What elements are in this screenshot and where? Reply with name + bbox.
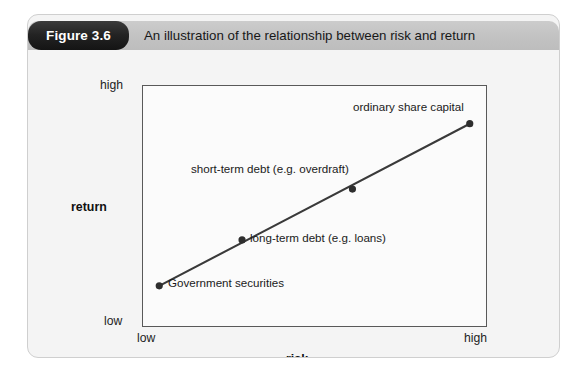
x-axis-low-label: low [137,331,155,345]
y-axis-title: return [71,200,107,214]
point-label-short-term-debt: short-term debt (e.g. overdraft) [191,162,349,175]
data-point [238,236,245,243]
y-axis-high-label: high [100,78,123,92]
figure-card: Figure 3.6 An illustration of the relati… [27,14,560,358]
data-point [466,120,473,127]
trend-line [159,124,470,286]
chart-area: high low low high return risk Government… [28,50,560,358]
point-label-long-term-debt: long-term debt (e.g. loans) [250,231,386,244]
figure-title: An illustration of the relationship betw… [144,21,475,50]
x-axis-high-label: high [464,331,487,345]
data-point [156,282,163,289]
point-label-government-securities: Government securities [168,276,284,289]
data-point [349,185,356,192]
figure-number-label: Figure 3.6 [46,28,111,43]
figure-number-badge: Figure 3.6 [28,21,129,50]
figure-header-band: Figure 3.6 An illustration of the relati… [28,21,559,50]
y-axis-low-label: low [104,314,122,328]
plot-graphics [142,85,487,327]
point-label-ordinary-share-capital: ordinary share capital [353,100,464,113]
x-axis-title: risk [286,352,308,358]
